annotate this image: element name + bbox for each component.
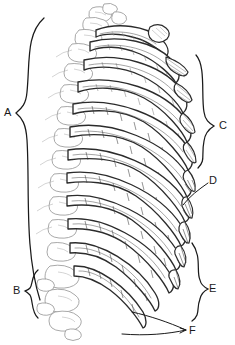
manubrium-fragment (148, 25, 169, 43)
label-f: F (189, 324, 196, 336)
leader-f-lower (122, 330, 186, 335)
label-c: C (219, 119, 227, 131)
brace-a (16, 18, 44, 300)
anatomical-figure: A B C D E F (0, 0, 235, 345)
label-a: A (4, 106, 12, 118)
rib-cage-illustration: A B C D E F (0, 0, 235, 345)
label-b: B (13, 284, 20, 296)
label-letters: A B C D E F (4, 106, 227, 336)
label-d: D (209, 174, 217, 186)
brace-b (25, 270, 38, 318)
brace-e (192, 243, 208, 321)
label-e: E (209, 282, 216, 294)
brace-c (196, 55, 214, 168)
